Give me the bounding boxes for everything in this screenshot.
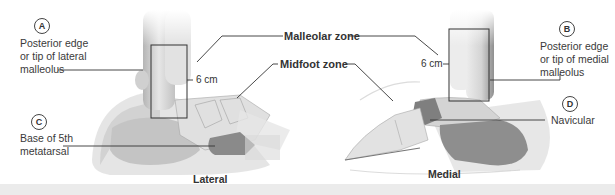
marker-c: C (31, 114, 47, 130)
marker-c-label: Base of 5th metatarsal (20, 132, 73, 158)
malleolar-zone-label: Malleolar zone (284, 30, 360, 42)
marker-d: D (562, 96, 578, 112)
midfoot-zone-label: Midfoot zone (280, 58, 348, 70)
marker-b-line-2: or tip of medial (540, 53, 609, 66)
marker-c-line-2: metatarsal (20, 145, 73, 158)
marker-d-label: Navicular (551, 114, 595, 127)
marker-a: A (34, 18, 50, 34)
marker-b-label: Posterior edge or tip of medial malleolu… (540, 40, 609, 79)
ottawa-ankle-rules-diagram: A Posterior edge or tip of lateral malle… (0, 0, 615, 195)
marker-b-line-1: Posterior edge (540, 40, 609, 53)
marker-a-line-3: malleolus (20, 63, 88, 76)
medial-view-label: Medial (428, 168, 461, 180)
marker-c-line-1: Base of 5th (20, 132, 73, 145)
medial-6cm-label: 6 cm (421, 58, 443, 69)
marker-a-line-1: Posterior edge (20, 37, 88, 50)
lateral-6cm-label: 6 cm (196, 74, 218, 85)
marker-a-label: Posterior edge or tip of lateral malleol… (20, 37, 88, 76)
marker-b-line-3: malleolus (540, 66, 609, 79)
bottom-strip (0, 184, 615, 195)
marker-a-line-2: or tip of lateral (20, 50, 88, 63)
medial-view (345, 10, 550, 174)
marker-b: B (559, 21, 575, 37)
marker-d-line-1: Navicular (551, 114, 595, 127)
lateral-view (92, 10, 290, 175)
